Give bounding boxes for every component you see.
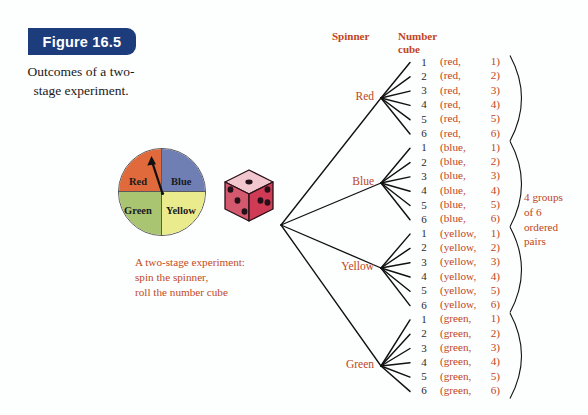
outcome-pair-second: 4): [491, 98, 500, 110]
outcome-pair-first: (red,: [440, 69, 461, 81]
cube-number-blue-4: 4: [418, 184, 430, 196]
experiment-note-line-2: spin the spinner,: [135, 270, 245, 285]
outcome-pair-second: 3): [491, 84, 500, 96]
cube-number-green-4: 4: [418, 356, 430, 368]
cube-number-yellow-1: 1: [418, 227, 430, 239]
outcome-pair-second: 2): [491, 155, 500, 167]
outcome-pair-red-6: (red,6): [440, 127, 502, 139]
outcome-pair-first: (blue,: [440, 198, 466, 210]
outcome-pair-yellow-3: (yellow,3): [440, 255, 502, 267]
cube-number-blue-6: 6: [418, 213, 430, 225]
outcome-pair-first: (green,: [440, 384, 471, 396]
spinner-label-blue: Blue: [171, 176, 191, 187]
outcome-pair-second: 2): [491, 69, 500, 81]
experiment-note-line-1: A two-stage experiment:: [135, 255, 245, 270]
cube-number-blue-2: 2: [418, 156, 430, 168]
outcome-pair-first: (blue,: [440, 184, 466, 196]
cube-number-red-1: 1: [418, 56, 430, 68]
outcome-pair-first: (yellow,: [440, 227, 476, 239]
outcome-pair-second: 5): [491, 198, 500, 210]
outcome-pair-first: (yellow,: [440, 255, 476, 267]
outcome-pair-first: (green,: [440, 312, 471, 324]
ordered-pairs-note-line-2: of 6: [524, 205, 584, 220]
outcome-pair-second: 5): [491, 112, 500, 124]
outcome-pair-red-3: (red,3): [440, 84, 502, 96]
outcome-pair-second: 3): [491, 169, 500, 181]
outcome-pair-blue-5: (blue,5): [440, 198, 502, 210]
column-header-number-cube: Number cube: [398, 30, 456, 57]
figure-stage: Figure 16.5 Outcomes of a two-stage expe…: [0, 0, 588, 415]
cube-number-yellow-2: 2: [418, 241, 430, 253]
outcome-pair-first: (red,: [440, 112, 461, 124]
outcome-pair-second: 5): [491, 370, 500, 382]
outcome-pair-red-2: (red,2): [440, 69, 502, 81]
outcome-pair-blue-1: (blue,1): [440, 141, 502, 153]
outcome-pair-first: (yellow,: [440, 298, 476, 310]
cube-number-blue-5: 5: [418, 199, 430, 211]
outcome-pair-first: (blue,: [440, 141, 466, 153]
outcome-pair-second: 1): [491, 141, 500, 153]
cube-number-yellow-6: 6: [418, 299, 430, 311]
outcome-pair-second: 5): [491, 284, 500, 296]
cube-number-red-2: 2: [418, 70, 430, 82]
outcome-pair-red-1: (red,1): [440, 55, 502, 67]
outcome-pair-green-2: (green,2): [440, 327, 502, 339]
ordered-pairs-note-line-4: pairs: [524, 234, 584, 249]
die-icon: [218, 166, 280, 228]
ordered-pairs-note-line-3: ordered: [524, 220, 584, 235]
figure-badge: Figure 16.5: [28, 28, 136, 55]
outcome-pair-green-3: (green,3): [440, 341, 502, 353]
outcome-pair-red-5: (red,5): [440, 112, 502, 124]
outcome-pair-first: (red,: [440, 55, 461, 67]
cube-number-green-3: 3: [418, 342, 430, 354]
outcome-pair-second: 6): [491, 298, 500, 310]
outcome-pair-first: (red,: [440, 84, 461, 96]
group-brace-yellow: [510, 227, 522, 313]
outcome-pair-second: 2): [491, 327, 500, 339]
outcome-pair-yellow-1: (yellow,1): [440, 227, 502, 239]
group-brace-blue: [510, 141, 522, 227]
cube-number-yellow-3: 3: [418, 256, 430, 268]
outcome-pair-blue-4: (blue,4): [440, 184, 502, 196]
outcome-pair-first: (blue,: [440, 212, 466, 224]
stage1-label-green: Green: [326, 358, 374, 370]
spinner-label-yellow: Yellow: [166, 205, 196, 216]
outcome-pair-blue-3: (blue,3): [440, 169, 502, 181]
column-header-spinner: Spinner: [332, 30, 369, 43]
number-cube-graphic: [218, 166, 280, 228]
cube-number-red-6: 6: [418, 127, 430, 139]
outcome-pair-green-4: (green,4): [440, 355, 502, 367]
outcome-pair-green-6: (green,6): [440, 384, 502, 396]
outcome-pair-first: (red,: [440, 98, 461, 110]
experiment-note-line-3: roll the number cube: [135, 285, 245, 300]
outcome-pair-second: 4): [491, 355, 500, 367]
outcome-pair-yellow-6: (yellow,6): [440, 298, 502, 310]
outcome-pair-blue-6: (blue,6): [440, 212, 502, 224]
outcome-pair-first: (blue,: [440, 169, 466, 181]
figure-caption: Outcomes of a two-stage experiment.: [18, 62, 144, 100]
outcome-pair-first: (yellow,: [440, 284, 476, 296]
cube-number-red-5: 5: [418, 113, 430, 125]
outcome-pair-yellow-4: (yellow,4): [440, 270, 502, 282]
cube-number-green-6: 6: [418, 384, 430, 396]
cube-number-green-2: 2: [418, 327, 430, 339]
outcome-pair-first: (blue,: [440, 155, 466, 167]
outcome-pair-blue-2: (blue,2): [440, 155, 502, 167]
cube-number-yellow-5: 5: [418, 284, 430, 296]
experiment-note: A two-stage experiment: spin the spinner…: [135, 255, 245, 300]
outcome-pair-second: 3): [491, 255, 500, 267]
spinner-graphic: Red Blue Green Yellow: [118, 148, 208, 238]
outcome-pair-first: (green,: [440, 327, 471, 339]
outcome-pair-first: (red,: [440, 127, 461, 139]
stage1-label-blue: Blue: [326, 175, 374, 187]
outcome-pair-second: 1): [491, 55, 500, 67]
outcome-pair-yellow-5: (yellow,5): [440, 284, 502, 296]
cube-number-red-3: 3: [418, 84, 430, 96]
outcome-pair-second: 6): [491, 212, 500, 224]
outcome-pair-first: (yellow,: [440, 270, 476, 282]
outcome-pair-second: 3): [491, 341, 500, 353]
cube-number-green-1: 1: [418, 313, 430, 325]
outcome-pair-second: 1): [491, 227, 500, 239]
outcome-pair-yellow-2: (yellow,2): [440, 241, 502, 253]
outcome-pair-green-5: (green,5): [440, 370, 502, 382]
